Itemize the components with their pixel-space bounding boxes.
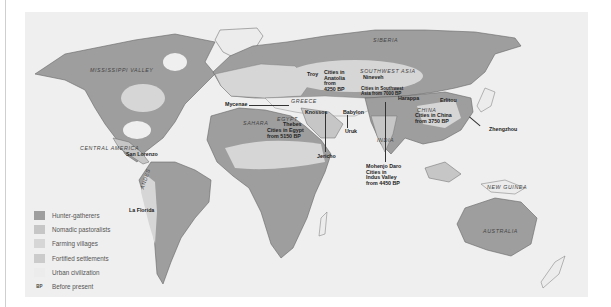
legend-item-farming-villages: Farming villages xyxy=(34,237,110,251)
site-harappa: Harappa xyxy=(398,96,419,102)
region-siberia: SIBERIA xyxy=(373,37,398,43)
leader-jericho xyxy=(325,112,326,152)
frame-rule xyxy=(5,0,6,307)
legend-label: Urban civilization xyxy=(52,269,100,276)
legend-label: Fortified settlements xyxy=(52,255,109,262)
legend-item-nomadic-pastoralists: Nomadic pastoralists xyxy=(34,222,110,236)
legend-item-before-present: BP Before present xyxy=(34,279,110,293)
australia xyxy=(457,198,537,256)
new-zealand xyxy=(541,256,565,288)
map-legend: Hunter-gatherers Nomadic pastoralists Fa… xyxy=(34,208,110,294)
legend-label: Farming villages xyxy=(52,240,98,247)
leader-mohenjo-daro xyxy=(385,102,386,162)
legend-label: Hunter-gatherers xyxy=(52,212,100,219)
region-sahara: SAHARA xyxy=(243,120,268,126)
indonesia xyxy=(425,162,461,182)
site-zhengzhou: Zhengzhou xyxy=(489,127,517,133)
legend-label: Nomadic pastoralists xyxy=(52,226,110,233)
japan xyxy=(477,88,495,112)
swatch-urban-civilization xyxy=(34,268,45,277)
madagascar xyxy=(319,212,327,236)
site-troy: Troy xyxy=(307,72,318,78)
site-jericho: Jericho xyxy=(317,154,336,160)
site-anatolia-cities: Cities in Anatolia from 4250 BP xyxy=(324,70,345,92)
site-nineveh: Nineveh xyxy=(363,75,384,81)
mississippi-farming xyxy=(121,84,165,112)
site-mycenae: Mycenae xyxy=(225,102,247,108)
site-erlitou: Erlitou xyxy=(440,98,457,104)
leader-uruk xyxy=(347,115,348,128)
hudson-bay xyxy=(163,53,187,71)
site-uruk: Uruk xyxy=(345,129,357,135)
swatch-hunter-gatherers xyxy=(34,211,45,220)
region-mississippi-valley: MISSISSIPPI VALLEY xyxy=(90,67,154,73)
legend-label: Before present xyxy=(52,283,93,290)
site-san-lorenzo: San Lorenzo xyxy=(126,152,158,158)
legend-item-fortified-settlements: Fortified settlements xyxy=(34,251,110,265)
site-la-florida: La Florida xyxy=(129,208,154,214)
legend-item-hunter-gatherers: Hunter-gatherers xyxy=(34,208,110,222)
swatch-farming-villages xyxy=(34,239,45,248)
leader-mycenae xyxy=(249,105,289,106)
swatch-fortified-settlements xyxy=(34,254,45,263)
swatch-nomadic-pastoralists xyxy=(34,225,45,234)
site-egypt-cities: Cities in Egypt from 5150 BP xyxy=(267,128,304,139)
bp-abbrev: BP xyxy=(34,284,45,289)
gulf-of-mexico xyxy=(123,121,151,139)
legend-item-urban-civilization: Urban civilization xyxy=(34,265,110,279)
site-mohenjo-daro: Mohenjo Daro Cities in Indus Valley from… xyxy=(366,164,401,186)
region-greece: GREECE xyxy=(291,98,317,104)
region-new-guinea: NEW GUINEA xyxy=(487,184,527,190)
region-australia: AUSTRALIA xyxy=(483,228,518,234)
site-china-cities: Cities in China from 3750 BP xyxy=(415,113,452,124)
